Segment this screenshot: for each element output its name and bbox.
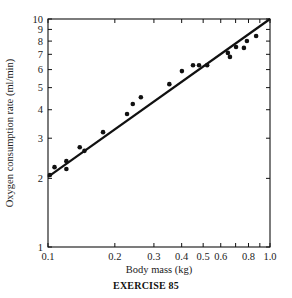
y-tick-label: 3 bbox=[38, 133, 43, 144]
data-point bbox=[64, 159, 69, 164]
data-point bbox=[82, 149, 87, 154]
x-tick-label: 0.8 bbox=[242, 251, 255, 262]
x-axis-ticks: 0.10.20.30.40.50.60.81.0 bbox=[41, 19, 276, 262]
data-point bbox=[205, 63, 210, 68]
y-tick-label: 4 bbox=[38, 104, 44, 115]
data-point bbox=[242, 46, 247, 51]
data-point bbox=[197, 63, 202, 68]
data-point bbox=[167, 82, 172, 87]
x-tick-label: 0.4 bbox=[175, 251, 189, 262]
data-point bbox=[52, 165, 57, 170]
data-point bbox=[64, 167, 69, 172]
y-tick-label: 6 bbox=[38, 64, 43, 75]
x-tick-label: 0.6 bbox=[214, 251, 227, 262]
x-tick-label: 0.5 bbox=[197, 251, 210, 262]
y-tick-label: 9 bbox=[38, 24, 43, 35]
y-tick-label: 8 bbox=[38, 36, 43, 47]
data-point bbox=[131, 102, 136, 107]
x-tick-label: 0.2 bbox=[108, 251, 121, 262]
y-tick-label: 5 bbox=[38, 82, 43, 93]
data-point bbox=[254, 34, 259, 39]
data-point bbox=[139, 95, 144, 100]
y-tick-label: 7 bbox=[38, 49, 43, 60]
x-tick-label: 0.3 bbox=[147, 251, 160, 262]
data-point bbox=[228, 55, 233, 60]
data-point bbox=[77, 145, 82, 150]
y-axis-title: Oxygen consumption rate (ml/min) bbox=[4, 58, 16, 207]
y-tick-label: 2 bbox=[38, 173, 43, 184]
y-tick-label: 10 bbox=[33, 14, 44, 25]
fitted-line bbox=[48, 19, 270, 177]
y-axis-ticks: 12345678910 bbox=[33, 14, 271, 253]
data-point bbox=[234, 45, 239, 50]
chart: 0.10.20.30.40.50.60.81.0 12345678910 Bod… bbox=[0, 0, 292, 298]
y-tick-label: 1 bbox=[38, 242, 43, 253]
data-point bbox=[101, 130, 106, 135]
data-point bbox=[191, 63, 196, 68]
data-point bbox=[125, 112, 130, 117]
x-tick-label: 1.0 bbox=[263, 251, 276, 262]
x-tick-label: 0.1 bbox=[41, 251, 54, 262]
data-point bbox=[226, 51, 231, 56]
data-point bbox=[245, 39, 250, 44]
plot-frame bbox=[48, 19, 270, 247]
data-point bbox=[48, 173, 53, 178]
fitted-line-path bbox=[48, 19, 270, 177]
x-axis-title: Body mass (kg) bbox=[126, 264, 193, 276]
data-point bbox=[180, 69, 185, 74]
exercise-caption: EXERCISE 85 bbox=[0, 280, 292, 291]
